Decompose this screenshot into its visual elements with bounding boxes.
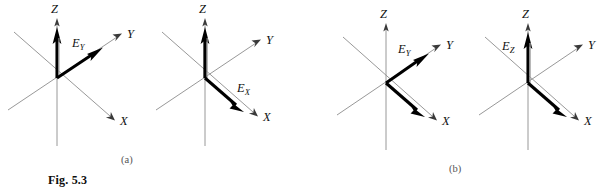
- field-label-ez: EZ: [501, 39, 515, 55]
- x-axis: [14, 32, 115, 121]
- y-axis: [479, 45, 583, 115]
- field-vector-z: [524, 32, 533, 83]
- figure-container: Z Y X EY: [0, 0, 602, 192]
- axes-diagram-a1: Z Y X EY: [0, 0, 150, 152]
- x-axis-label: X: [119, 114, 129, 128]
- z-axis-label: Z: [199, 2, 207, 16]
- y-axis-label: Y: [266, 33, 275, 47]
- field-vector-x: [528, 83, 567, 117]
- field-vector-x: [386, 83, 425, 117]
- field-label-ex: EX: [236, 81, 251, 97]
- axes-diagram-b1: Z Y X EY: [300, 0, 450, 152]
- z-axis-label: Z: [51, 2, 59, 16]
- field-label-subscript: X: [244, 87, 251, 97]
- field-label-letter: E: [397, 42, 406, 56]
- field-label-ey: EY: [71, 36, 86, 52]
- z-axis-label: Z: [380, 7, 388, 21]
- panel-label-b: (b): [449, 163, 461, 174]
- axes-diagram-b2: Z Y X EZ: [445, 0, 595, 152]
- y-axis-label: Y: [127, 27, 136, 41]
- x-axis-label: X: [262, 110, 272, 124]
- panel-label-a: (a): [121, 154, 133, 165]
- field-label-subscript: Y: [406, 48, 412, 58]
- field-label-letter: E: [501, 39, 510, 53]
- y-axis-label: Y: [588, 38, 597, 52]
- field-label-letter: E: [71, 36, 80, 50]
- field-label-subscript: Y: [80, 42, 86, 52]
- field-label-ey: EY: [397, 42, 412, 58]
- x-axis-label: X: [583, 114, 593, 128]
- axes-diagram-a2: Z Y X EX: [148, 0, 298, 152]
- field-vector-z: [53, 27, 62, 78]
- field-label-subscript: Z: [510, 45, 515, 55]
- x-axis: [485, 37, 579, 121]
- field-vector-z: [201, 27, 210, 78]
- y-axis: [156, 40, 261, 110]
- x-axis: [162, 32, 258, 117]
- figure-caption: Fig. 5.3: [48, 173, 87, 188]
- z-axis-label: Z: [522, 7, 530, 21]
- field-label-letter: E: [236, 81, 245, 95]
